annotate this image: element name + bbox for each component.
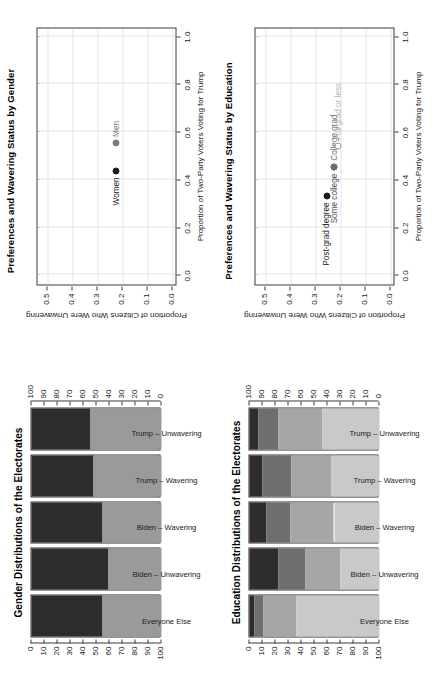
right-axis-tick-label: 20 — [348, 389, 357, 398]
right-axis-tick — [121, 401, 122, 405]
scatter-point — [330, 163, 337, 170]
bar-segment — [249, 595, 254, 636]
left-axis-tick-label: 70 — [117, 646, 126, 655]
scatter-point-label: Men — [111, 120, 120, 136]
right-axis-tick — [43, 401, 44, 405]
bar-category-label: Trump – Unwavering — [349, 428, 419, 437]
right-axis-tick-label: 100 — [26, 385, 35, 398]
left-axis-line — [30, 642, 160, 643]
right-axis-tick — [378, 401, 379, 405]
x-axis-tick — [394, 83, 398, 84]
right-axis-line — [248, 400, 378, 401]
x-axis-tick — [394, 274, 398, 275]
left-axis-tick-label: 70 — [335, 646, 344, 655]
x-axis-tick-label: 0.2 — [182, 222, 191, 233]
y-axis-label: Proportion of Citizens Who Were Unwaveri… — [26, 311, 187, 320]
gridline-horizontal — [265, 28, 266, 284]
panel-gender-distributions: Gender Distributions of the ElectoratesE… — [0, 341, 218, 683]
left-axis-tick-label: 20 — [52, 646, 61, 655]
bar-segment — [31, 408, 90, 449]
x-axis-tick-label: 0.4 — [400, 174, 409, 185]
stacked-bar — [30, 594, 160, 637]
right-axis-tick — [69, 401, 70, 405]
x-axis-tick — [394, 36, 398, 37]
y-axis-tick — [46, 286, 47, 290]
gridline-horizontal — [47, 28, 48, 284]
y-axis-tick-label: 0.1 — [142, 293, 151, 304]
bar-category-label: Trump – Wavering — [353, 475, 415, 484]
left-axis-tick-label: 90 — [143, 646, 152, 655]
right-axis-tick-label: 100 — [244, 385, 253, 398]
bar-segment — [249, 455, 262, 496]
left-axis-tick-label: 60 — [322, 646, 331, 655]
right-axis-tick-label: 80 — [52, 389, 61, 398]
scatter-point — [334, 142, 341, 149]
right-axis-tick-label: 30 — [117, 389, 126, 398]
scatter-point — [323, 192, 330, 199]
y-axis-tick-label: 0.0 — [385, 293, 394, 304]
right-axis-tick — [365, 401, 366, 405]
x-axis-tick-label: 0.0 — [182, 270, 191, 281]
left-axis-tick-label: 30 — [65, 646, 74, 655]
right-axis-tick-label: 0 — [156, 394, 165, 398]
right-axis-tick-label: 70 — [65, 389, 74, 398]
gridline-horizontal — [340, 28, 341, 284]
x-axis-tick-label: 0.6 — [182, 127, 191, 138]
bar-segment — [31, 595, 102, 636]
right-axis-tick-label: 50 — [309, 389, 318, 398]
gridline-vertical — [37, 82, 175, 83]
y-axis-tick — [264, 286, 265, 290]
bar-category-label: Trump – Wavering — [135, 475, 197, 484]
right-axis-tick — [82, 401, 83, 405]
right-axis-tick — [160, 401, 161, 405]
x-axis-tick — [394, 131, 398, 132]
education_bars-title: Education Distributions of the Electorat… — [230, 407, 241, 637]
bar-category-label: Biden – Unwavering — [350, 569, 418, 578]
x-axis-tick — [394, 179, 398, 180]
right-axis-tick-label: 70 — [283, 389, 292, 398]
right-axis-tick-label: 0 — [374, 394, 383, 398]
x-axis-tick — [176, 83, 180, 84]
right-axis-tick-label: 30 — [335, 389, 344, 398]
bar-segment — [278, 408, 322, 449]
y-axis-tick — [171, 286, 172, 290]
scatter-point-label: Women — [111, 177, 120, 205]
y-axis-tick — [121, 286, 122, 290]
gridline-horizontal — [365, 28, 366, 284]
right-axis-tick-label: 20 — [130, 389, 139, 398]
bar-category-label: Trump – Unwavering — [131, 428, 201, 437]
stacked-bar — [248, 594, 378, 637]
gridline-vertical — [37, 178, 175, 179]
gridline-vertical — [37, 35, 175, 36]
figure-canvas: Gender Distributions of the ElectoratesE… — [0, 0, 435, 683]
left-axis-tick-label: 90 — [361, 646, 370, 655]
right-axis-tick — [352, 401, 353, 405]
y-axis-tick-label: 0.1 — [360, 293, 369, 304]
bar-segment — [262, 455, 291, 496]
y-axis-tick-label: 0.3 — [92, 293, 101, 304]
x-axis-tick-label: 0.8 — [400, 79, 409, 90]
bar-segment — [254, 595, 263, 636]
bar-segment — [263, 595, 296, 636]
gridline-horizontal — [290, 28, 291, 284]
y-axis-tick-label: 0.5 — [260, 293, 269, 304]
bar-category-label: Everyone Else — [360, 616, 409, 625]
right-axis-tick-label: 90 — [257, 389, 266, 398]
bar-category-label: Everyone Else — [142, 616, 191, 625]
left-axis-tick-label: 0 — [244, 646, 253, 650]
y-axis-tick-label: 0.4 — [285, 293, 294, 304]
x-axis-tick-label: 0.8 — [182, 79, 191, 90]
right-axis-tick-label: 10 — [361, 389, 370, 398]
x-axis-tick — [176, 131, 180, 132]
left-axis-tick-label: 100 — [374, 646, 383, 659]
right-axis-tick-label: 40 — [104, 389, 113, 398]
bar-segment — [31, 502, 102, 543]
bar-segment — [31, 455, 93, 496]
gridline-horizontal — [72, 28, 73, 284]
y-axis-tick-label: 0.3 — [310, 293, 319, 304]
x-axis-label: Proportion of Two-Party Voters Voting fo… — [195, 71, 204, 241]
right-axis-tick — [108, 401, 109, 405]
gridline-horizontal — [315, 28, 316, 284]
x-axis-tick — [176, 274, 180, 275]
bar-segment — [31, 548, 108, 589]
